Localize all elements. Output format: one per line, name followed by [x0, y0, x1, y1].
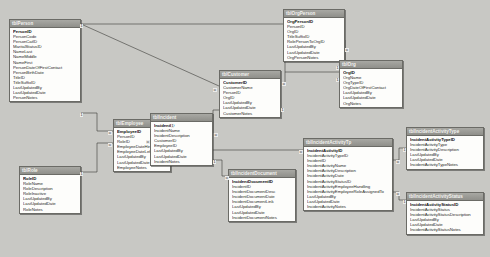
cardinality-marker: ∞: [396, 160, 400, 164]
table-title-tblOrg[interactable]: tblOrg: [340, 61, 402, 69]
table-title-tblRole[interactable]: tblRole: [20, 167, 80, 175]
table-fields-tblIncident: IncidentIDIncidentNameIncidentDescriptio…: [151, 122, 212, 165]
cardinality-marker: 1: [403, 200, 406, 204]
cardinality-marker: ∞: [299, 150, 303, 154]
table-tblPerson[interactable]: tblPersonPersonIDPersonCodePersonCatIDMa…: [9, 19, 81, 102]
cardinality-marker: ∞: [108, 143, 112, 147]
cardinality-marker: ∞: [396, 192, 400, 196]
table-title-tblIncidentDocument[interactable]: tblIncidentDocument: [229, 170, 295, 178]
rel-role-employee: [81, 143, 113, 172]
table-fields-tblOrg: OrgIDOrgNameOrgTypeIDOrgDateOfFirstConta…: [340, 69, 402, 107]
table-fields-tblIncidentDocument: IncidentDocumentIDIncidentIDIncidentDocu…: [229, 178, 295, 221]
cardinality-marker: ∞: [213, 88, 217, 92]
cardinality-marker: 1: [213, 160, 216, 164]
table-fields-tblRole: RoleIDRoleNameRoleDescriptionRoleInactiv…: [20, 175, 80, 213]
field[interactable]: IncidentActivityNotes: [307, 204, 390, 209]
cardinality-marker: ∞: [146, 140, 150, 144]
erd-canvas: tblPersonPersonIDPersonCodePersonCatIDMa…: [0, 0, 490, 257]
cardinality-marker: 1: [80, 24, 83, 28]
table-tblIncidentActivityType[interactable]: tblIncidentActivityTypeIncidentActivityT…: [406, 127, 484, 170]
cardinality-marker: 1: [403, 148, 406, 152]
table-fields-tblPerson: PersonIDPersonCodePersonCatIDMaritalStat…: [10, 28, 80, 101]
cardinality-marker: ∞: [345, 48, 349, 52]
table-tblOrg[interactable]: tblOrgOrgIDOrgNameOrgTypeIDOrgDateOfFirs…: [339, 60, 403, 108]
table-title-tblIncidentActivityTp[interactable]: tblIncidentActivityTp: [304, 139, 392, 147]
cardinality-marker: 1: [336, 66, 339, 70]
table-tblIncidentDocument[interactable]: tblIncidentDocumentIncidentDocumentIDInc…: [228, 169, 296, 222]
field[interactable]: IncidentDocumentNotes: [232, 215, 293, 220]
table-title-tblIncident[interactable]: tblIncident: [151, 114, 212, 122]
cardinality-marker: ∞: [282, 82, 286, 86]
field[interactable]: OrgPersonNotes: [287, 55, 342, 60]
field[interactable]: CustomerNotes: [223, 111, 278, 116]
field[interactable]: OrgNotes: [343, 101, 400, 106]
field[interactable]: IncidentActivityTypeNotes: [410, 162, 481, 167]
cardinality-marker: 1: [80, 113, 83, 117]
table-tblIncidentActivityStatus[interactable]: tblIncidentActivityStatusIncidentActivit…: [406, 192, 484, 235]
rel-person-customer: [81, 24, 219, 86]
cardinality-marker: ∞: [108, 131, 112, 135]
table-title-tblCustomer[interactable]: tblCustomer: [220, 71, 280, 79]
table-title-tblIncidentActivityType[interactable]: tblIncidentActivityType: [407, 128, 483, 136]
cardinality-marker: 1: [80, 172, 83, 176]
cardinality-marker: 1: [336, 78, 339, 82]
cardinality-marker: 1: [281, 108, 284, 112]
field[interactable]: PersonNotes: [13, 95, 78, 100]
table-tblIncident[interactable]: tblIncidentIncidentIDIncidentNameInciden…: [150, 113, 213, 166]
cardinality-marker: ∞: [225, 176, 229, 180]
cardinality-marker: ∞: [214, 133, 218, 137]
table-tblRole[interactable]: tblRoleRoleIDRoleNameRoleDescriptionRole…: [19, 166, 81, 214]
cardinality-marker: 1: [171, 124, 174, 128]
table-fields-tblCustomer: CustomerIDCustomerNamePersonIDOrgIDLastU…: [220, 79, 280, 117]
table-fields-tblIncidentActivityTp: IncidentActivityIDIncidentActivityTypeID…: [304, 147, 392, 210]
table-tblOrgPerson[interactable]: tblOrgPersonOrgPersonIDPersonIDOrgIDTitl…: [283, 9, 345, 62]
table-fields-tblOrgPerson: OrgPersonIDPersonIDOrgIDTitleSuffixIDRol…: [284, 18, 344, 61]
rel-person-employee: [81, 113, 113, 131]
table-title-tblPerson[interactable]: tblPerson: [10, 20, 80, 28]
table-title-tblIncidentActivityStatus[interactable]: tblIncidentActivityStatus: [407, 193, 483, 201]
table-fields-tblIncidentActivityStatus: IncidentActivityStatusIDIncidentActivity…: [407, 201, 483, 234]
field[interactable]: RoleNotes: [23, 207, 78, 212]
table-tblIncidentActivityTp[interactable]: tblIncidentActivityTpIncidentActivityIDI…: [303, 138, 393, 211]
field[interactable]: IncidentActivityStatusNotes: [410, 227, 481, 232]
table-title-tblOrgPerson[interactable]: tblOrgPerson: [284, 10, 344, 18]
table-fields-tblIncidentActivityType: IncidentActivityTypeIDIncidentActivityTy…: [407, 136, 483, 169]
field[interactable]: IncidentNotes: [154, 159, 210, 164]
table-tblCustomer[interactable]: tblCustomerCustomerIDCustomerNamePersonI…: [219, 70, 281, 118]
